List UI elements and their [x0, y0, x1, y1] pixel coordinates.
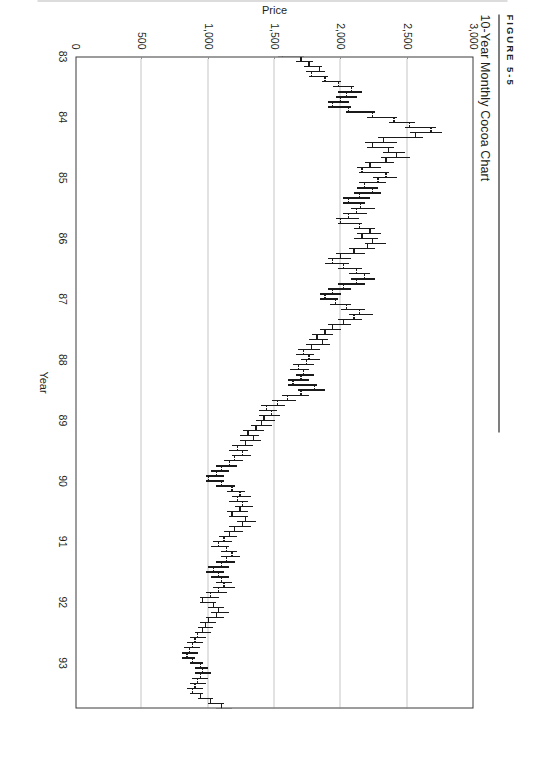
x-tick-label: 91: [56, 535, 68, 547]
y-tick-label: 2,000: [334, 23, 346, 49]
y-tick-label: 1,000: [202, 23, 214, 49]
x-tick-label: 90: [56, 475, 68, 487]
x-tick-label: 87: [56, 293, 68, 305]
x-tick-label: 93: [56, 657, 68, 669]
y-tick-label: 1,500: [268, 23, 280, 49]
page-edge-rule: [37, 0, 507, 1]
caption-divider: [498, 14, 499, 432]
x-tick-label: 89: [56, 414, 68, 426]
figure-number: FIGURE 5-5: [503, 14, 515, 444]
figure-title: 10-Year Monthly Cocoa Chart: [477, 14, 491, 444]
y-axis-label: Price: [261, 3, 286, 15]
y-tick-label: 3,000: [467, 23, 479, 49]
x-tick-label: 92: [56, 596, 68, 608]
x-tick-label: 86: [56, 232, 68, 244]
ohlc-series: [75, 56, 473, 708]
ohlc-bars: [75, 56, 473, 708]
figure-caption: FIGURE 5-5 10-Year Monthly Cocoa Chart: [477, 14, 515, 444]
y-tick-label: 0: [69, 43, 81, 49]
figure-page: FIGURE 5-5 10-Year Monthly Cocoa Chart 3…: [0, 0, 533, 783]
y-tick-label: 2,500: [401, 23, 413, 49]
y-tick-label: 500: [135, 31, 147, 49]
x-tick-label: 84: [56, 111, 68, 123]
x-tick-label: 83: [56, 50, 68, 62]
chart-plot-area: 3,0002,5002,0001,5001,0005000 8384858687…: [75, 56, 473, 708]
x-tick-label: 85: [56, 171, 68, 183]
x-tick-label: 88: [56, 353, 68, 365]
x-axis-label: Year: [37, 371, 49, 393]
